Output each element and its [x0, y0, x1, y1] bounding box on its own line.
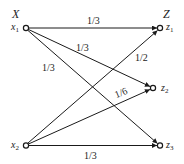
node-z3-circle [157, 143, 162, 148]
node-x2-circle [23, 143, 28, 148]
node-z1-circle [157, 25, 162, 30]
weight-x1-z3: 1/3 [42, 63, 55, 73]
node-label-x2: x2 [11, 140, 19, 152]
edge-x1-z2 [29, 30, 151, 87]
node-label-z3: z3 [166, 140, 173, 152]
node-label-x1: x1 [11, 22, 19, 34]
weight-x2-z1: 1/2 [135, 53, 148, 63]
set-label-x: X [12, 8, 19, 20]
weight-x2-z3: 1/3 [84, 151, 97, 161]
weight-x1-z1: 1/3 [87, 16, 100, 26]
weight-x1-z2: 1/3 [76, 43, 89, 53]
set-label-z: Z [163, 8, 170, 20]
transition-diagram: X Z x1 x2 z1 z2 z3 1/3 1/3 1/3 1/2 1/6 1… [0, 0, 184, 164]
node-x1-circle [23, 25, 28, 30]
edge-x2-z2 [29, 90, 151, 145]
node-z2-circle [150, 85, 155, 90]
node-label-z2: z2 [161, 83, 168, 95]
node-label-z1: z1 [166, 22, 173, 34]
